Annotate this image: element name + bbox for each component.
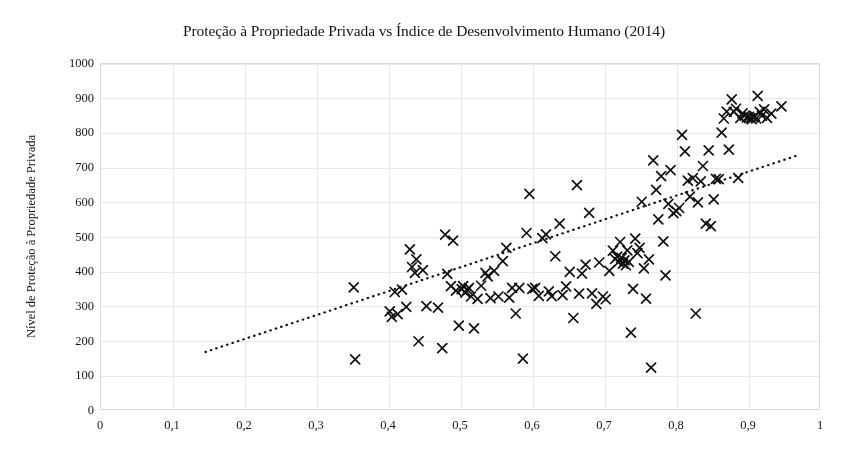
plot-area	[100, 63, 820, 410]
x-tick-label: 0,7	[574, 418, 634, 433]
scatter-chart: Proteção à Propriedade Privada vs Índice…	[0, 0, 848, 466]
y-tick-label: 400	[32, 264, 94, 279]
x-tick-label: 0,3	[286, 418, 346, 433]
y-axis-tick-labels: 01002003004005006007008009001000	[26, 63, 94, 410]
x-tick-label: 0,2	[214, 418, 274, 433]
x-axis-tick-labels: 00,10,20,30,40,50,60,70,80,91	[100, 418, 820, 440]
x-tick-label: 1	[790, 418, 848, 433]
x-tick-label: 0	[70, 418, 130, 433]
x-tick-label: 0,5	[430, 418, 490, 433]
y-tick-label: 600	[32, 194, 94, 209]
trendline	[205, 156, 795, 352]
x-tick-label: 0,9	[718, 418, 778, 433]
y-tick-label: 700	[32, 160, 94, 175]
y-tick-label: 900	[32, 90, 94, 105]
y-tick-label: 500	[32, 229, 94, 244]
y-tick-label: 300	[32, 298, 94, 313]
y-tick-label: 1000	[32, 56, 94, 71]
y-tick-label: 800	[32, 125, 94, 140]
y-tick-label: 0	[32, 403, 94, 418]
x-tick-label: 0,8	[646, 418, 706, 433]
plot-canvas	[101, 64, 821, 411]
x-tick-label: 0,6	[502, 418, 562, 433]
y-tick-label: 200	[32, 333, 94, 348]
y-tick-label: 100	[32, 368, 94, 383]
chart-title: Proteção à Propriedade Privada vs Índice…	[0, 22, 848, 40]
gridlines	[101, 64, 821, 411]
x-tick-label: 0,4	[358, 418, 418, 433]
x-tick-label: 0,1	[142, 418, 202, 433]
